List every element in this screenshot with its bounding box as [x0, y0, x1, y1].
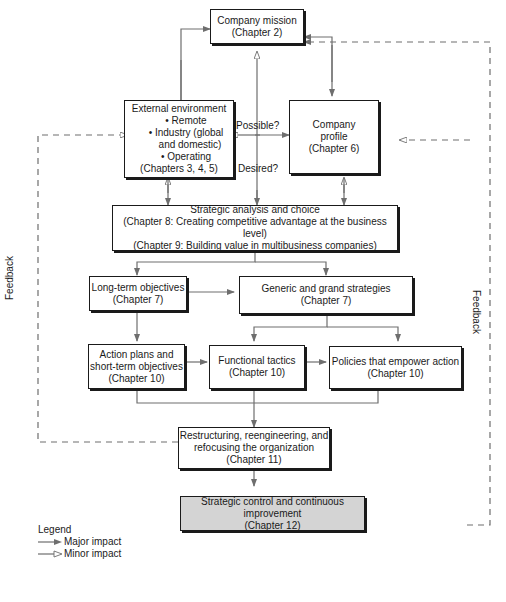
edge-label-possible: Possible? [236, 120, 279, 131]
node-chapter: (Chapter 10) [229, 367, 285, 379]
node-chapter: (Chapter 11) [226, 454, 281, 466]
node-chapter: (Chapter 7) [301, 295, 352, 307]
node-chapter: (Chapter 10) [367, 368, 423, 380]
node-line-2: (Chapter 8: Creating competitive advanta… [113, 216, 397, 240]
legend-minor: Minor impact [38, 548, 121, 560]
legend-major: Major impact [38, 536, 121, 548]
node-company-mission: Company mission (Chapter 2) [210, 9, 304, 44]
node-title: Strategic analysis and choice [190, 204, 320, 216]
node-title: Company mission [217, 15, 296, 27]
node-title: Strategic control and continuous improve… [181, 496, 364, 520]
edge-label-desired: Desired? [238, 163, 278, 174]
node-functional-tactics: Functional tactics (Chapter 10) [209, 345, 305, 389]
node-strategic-analysis: Strategic analysis and choice (Chapter 8… [112, 205, 398, 251]
node-title: Policies that empower action [332, 356, 459, 368]
node-strategic-control: Strategic control and continuous improve… [180, 496, 365, 531]
node-title: Restructuring, reengineering, and [180, 430, 328, 442]
node-title-2: short-term objectives [90, 361, 183, 373]
node-line-3: (Chapter 9: Building value in multibusin… [133, 240, 376, 252]
node-company-profile: Company profile (Chapter 6) [289, 100, 379, 174]
node-title-2: profile [320, 131, 347, 143]
node-title: Functional tactics [218, 355, 295, 367]
minor-arrow-icon [38, 550, 62, 558]
bullet-operating: • Operating [147, 151, 211, 163]
legend-minor-label: Minor impact [64, 548, 121, 560]
node-action-plans: Action plans and short-term objectives (… [88, 344, 185, 389]
node-title: Company [313, 119, 356, 131]
legend: Legend Major impact Minor impact [38, 524, 121, 560]
legend-title: Legend [38, 524, 121, 536]
node-restructuring: Restructuring, reengineering, and refocu… [178, 427, 330, 469]
feedback-label-left: Feedback [4, 256, 15, 300]
node-title: Long-term objectives [92, 282, 185, 294]
node-policies: Policies that empower action (Chapter 10… [329, 346, 462, 389]
node-long-term-objectives: Long-term objectives (Chapter 7) [89, 276, 187, 311]
node-chapter: (Chapter 6) [309, 143, 360, 155]
node-title: Generic and grand strategies [262, 283, 391, 295]
node-generic-grand-strategies: Generic and grand strategies (Chapter 7) [239, 276, 413, 314]
bullet-industry-cont: and domestic) [137, 139, 222, 151]
node-chapter: (Chapters 3, 4, 5) [140, 163, 218, 175]
legend-major-label: Major impact [64, 536, 121, 548]
node-chapter: (Chapter 12) [244, 520, 300, 532]
bullet-industry: • Industry (global [135, 127, 224, 139]
node-chapter: (Chapter 10) [108, 373, 164, 385]
feedback-label-right: Feedback [471, 290, 482, 334]
node-title: Action plans and [100, 349, 174, 361]
node-external-environment: External environment • Remote • Industry… [124, 100, 234, 178]
major-arrow-icon [38, 538, 62, 546]
node-chapter: (Chapter 7) [113, 294, 164, 306]
node-chapter: (Chapter 2) [232, 27, 283, 39]
node-title: External environment [132, 103, 227, 115]
bullet-remote: • Remote [151, 115, 206, 127]
node-title-2: refocusing the organization [194, 442, 314, 454]
